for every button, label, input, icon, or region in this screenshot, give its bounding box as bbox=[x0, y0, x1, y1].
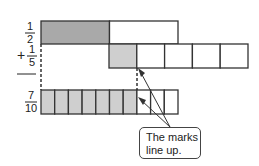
shaded-part bbox=[96, 90, 110, 114]
shaded-part bbox=[82, 90, 96, 114]
label-one-fifth: + 1 5 bbox=[17, 43, 37, 74]
callout-box: The marks line up. bbox=[139, 127, 201, 159]
fraction-bar-row-2 bbox=[109, 44, 248, 68]
label-denominator: 5 bbox=[29, 56, 35, 68]
shaded-part bbox=[41, 21, 110, 44]
plus-sign: + bbox=[17, 47, 25, 63]
label-one-half: 1 2 bbox=[25, 20, 35, 45]
label-denominator: 10 bbox=[25, 102, 37, 114]
unshaded-part bbox=[220, 44, 248, 68]
unshaded-part bbox=[165, 44, 193, 68]
shaded-part bbox=[123, 90, 137, 114]
fraction-bar-row-1 bbox=[41, 21, 178, 44]
label-numerator: 1 bbox=[29, 43, 35, 55]
shaded-part bbox=[109, 44, 137, 68]
shaded-part bbox=[110, 90, 124, 114]
fraction-bar-row-3 bbox=[41, 90, 178, 114]
fraction-diagram: 1 2 + 1 5 7 10 bbox=[0, 0, 259, 166]
label-numerator: 1 bbox=[27, 20, 33, 32]
callout-line-1: The marks bbox=[146, 131, 200, 144]
arrow-head-top bbox=[138, 68, 145, 77]
label-seven-tenths: 7 10 bbox=[25, 89, 37, 114]
unshaded-part bbox=[110, 21, 179, 44]
shaded-part bbox=[55, 90, 69, 114]
shaded-part bbox=[68, 90, 82, 114]
label-numerator: 7 bbox=[28, 89, 34, 101]
callout-line-2: line up. bbox=[146, 144, 200, 157]
unshaded-part bbox=[192, 44, 220, 68]
shaded-part bbox=[41, 90, 55, 114]
unshaded-part bbox=[164, 90, 178, 114]
unshaded-part bbox=[137, 44, 165, 68]
